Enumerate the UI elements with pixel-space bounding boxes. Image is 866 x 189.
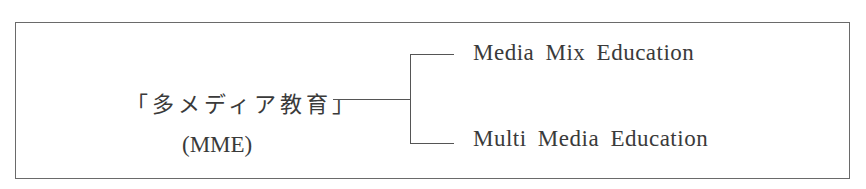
root-abbreviation: (MME)	[182, 132, 252, 158]
connector-branch-bottom	[410, 143, 454, 144]
connector-root-horizontal	[333, 99, 411, 100]
branch-label-media-mix: Media Mix Education	[473, 40, 694, 66]
connector-branch-top	[410, 54, 454, 55]
root-label: 「多メディア教育」	[126, 86, 358, 118]
connector-bracket-vertical	[410, 54, 411, 144]
branch-label-multi-media: Multi Media Education	[473, 126, 708, 152]
